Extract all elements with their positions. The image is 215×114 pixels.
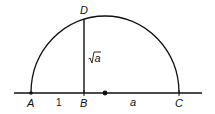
semicircle-arc [31,16,179,93]
label-segment-bc: a [130,96,136,108]
label-a: A [26,97,34,109]
label-b: B [80,97,87,109]
label-c: C [175,97,183,109]
radicand: a [95,52,101,64]
center-point [103,91,108,96]
label-d: D [80,4,88,16]
label-segment-bd: a [89,52,102,64]
point-a [29,91,33,95]
label-segment-ab: 1 [56,97,62,108]
diagram-canvas: A 1 B a C D a [0,0,215,114]
